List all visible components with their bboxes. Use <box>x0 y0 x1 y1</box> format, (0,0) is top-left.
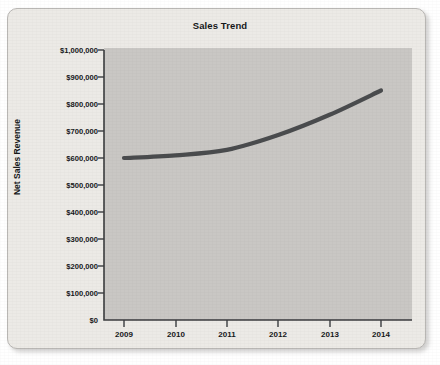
axis-lines <box>104 50 412 320</box>
sales-trend-chart-figure: Sales Trend Net Sales Revenue $1,000,000… <box>0 0 440 365</box>
x-tick-marks <box>124 320 381 327</box>
plot-svg <box>0 0 440 365</box>
y-tick-marks <box>98 50 104 293</box>
data-series-line <box>124 91 381 159</box>
